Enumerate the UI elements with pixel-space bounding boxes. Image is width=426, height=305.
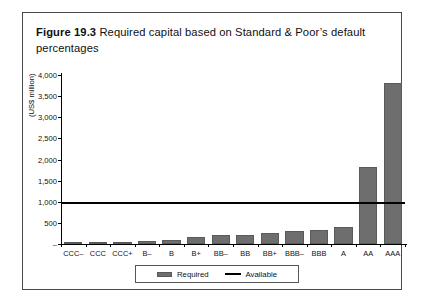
x-tick-mark <box>380 244 381 247</box>
bar-CCC <box>89 242 107 244</box>
legend-label: Required <box>177 270 209 279</box>
y-tick-label: – <box>53 240 57 249</box>
x-tick-mark <box>61 244 62 247</box>
bar-AAA <box>384 83 402 244</box>
bar-CCC+ <box>113 242 131 244</box>
x-tick-mark <box>233 244 234 247</box>
chart-area: (US$ million) –5001,0001,5002,0002,5003,… <box>23 13 403 291</box>
y-tick-mark <box>58 160 61 161</box>
x-tick-mark <box>135 244 136 247</box>
available-threshold-line <box>61 202 405 204</box>
x-tick-label: CCC– <box>63 249 83 258</box>
x-tick-label: BB+ <box>263 249 277 258</box>
x-tick-label: BBB <box>312 249 327 258</box>
x-tick-label: CCC+ <box>112 249 132 258</box>
bar-A <box>334 227 352 244</box>
bar-B+ <box>187 237 205 244</box>
y-tick-label: 2,000 <box>38 155 57 164</box>
y-tick-label: 2,500 <box>38 134 57 143</box>
x-tick-mark <box>159 244 160 247</box>
bar-BB+ <box>261 233 279 244</box>
figure-frame: Figure 19.3 Required capital based on St… <box>22 12 402 290</box>
bar-B– <box>138 241 156 244</box>
plot-box: –5001,0001,5002,0002,5003,0003,5004,000 <box>61 75 405 244</box>
x-tick-mark <box>258 244 259 247</box>
bar-BBB– <box>285 231 303 244</box>
x-tick-label: BB <box>240 249 250 258</box>
x-tick-label: B <box>169 249 174 258</box>
x-tick-mark <box>282 244 283 247</box>
y-tick-label: 1,000 <box>38 197 57 206</box>
y-tick-mark <box>58 223 61 224</box>
x-tick-label: CCC <box>90 249 106 258</box>
x-tick-label: BB– <box>214 249 228 258</box>
legend-entry-available: Available <box>225 270 278 279</box>
x-tick-label: B+ <box>192 249 201 258</box>
y-axis-title: (US$ million) <box>27 74 36 117</box>
bar-BB <box>236 235 254 244</box>
x-tick-label: B– <box>142 249 151 258</box>
legend-label: Available <box>246 270 278 279</box>
x-tick-mark <box>356 244 357 247</box>
y-tick-label: 3,500 <box>38 92 57 101</box>
y-tick-label: 4,000 <box>38 71 57 80</box>
x-tick-mark <box>307 244 308 247</box>
x-tick-mark <box>331 244 332 247</box>
x-tick-label: BBB– <box>285 249 304 258</box>
bar-BBB <box>310 230 328 244</box>
y-tick-label: 500 <box>44 218 57 227</box>
legend-line-swatch-icon <box>225 273 241 275</box>
y-tick-label: 3,000 <box>38 113 57 122</box>
chart-legend: RequiredAvailable <box>135 265 299 283</box>
x-tick-mark <box>86 244 87 247</box>
legend-entry-required: Required <box>157 270 209 279</box>
bar-AA <box>359 167 377 244</box>
y-tick-mark <box>58 96 61 97</box>
y-tick-mark <box>58 181 61 182</box>
y-tick-mark <box>58 75 61 76</box>
bar-BB– <box>212 235 230 244</box>
x-tick-mark <box>184 244 185 247</box>
legend-bar-swatch-icon <box>157 272 172 277</box>
x-tick-label: AAA <box>385 249 400 258</box>
x-tick-label: A <box>341 249 346 258</box>
x-tick-label: AA <box>363 249 373 258</box>
bar-B <box>162 240 180 244</box>
x-tick-mark <box>208 244 209 247</box>
x-tick-mark <box>110 244 111 247</box>
y-tick-mark <box>58 117 61 118</box>
y-tick-label: 1,500 <box>38 176 57 185</box>
y-tick-mark <box>58 138 61 139</box>
x-tick-mark <box>405 244 406 247</box>
bar-CCC– <box>64 242 82 244</box>
